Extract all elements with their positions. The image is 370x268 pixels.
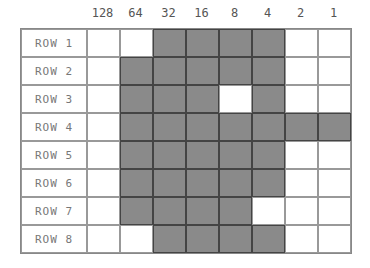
bit-cell xyxy=(219,225,252,253)
bit-cell xyxy=(120,85,153,113)
column-header: 128 64 32 16 8 4 2 1 xyxy=(86,6,350,22)
row-label: ROW 2 xyxy=(21,57,87,85)
bit-cell xyxy=(219,169,252,197)
bit-cell xyxy=(120,113,153,141)
bit-cell xyxy=(153,169,186,197)
bit-cell xyxy=(318,113,351,141)
col-32: 32 xyxy=(152,6,185,22)
bit-cell xyxy=(87,29,120,57)
bit-cell xyxy=(285,141,318,169)
bit-cell xyxy=(120,225,153,253)
col-1: 1 xyxy=(317,6,350,22)
bit-cell xyxy=(219,141,252,169)
grid-row: ROW 1 xyxy=(21,29,351,57)
bit-cell xyxy=(285,225,318,253)
bit-cell xyxy=(219,113,252,141)
row-label: ROW 3 xyxy=(21,85,87,113)
col-64: 64 xyxy=(119,6,152,22)
bit-cell xyxy=(153,141,186,169)
bit-cell xyxy=(219,197,252,225)
bit-cell xyxy=(87,57,120,85)
bit-cell xyxy=(219,29,252,57)
bit-cell xyxy=(285,57,318,85)
bit-cell xyxy=(318,169,351,197)
bit-cell xyxy=(120,169,153,197)
bit-cell xyxy=(318,197,351,225)
col-4: 4 xyxy=(251,6,284,22)
bit-cell xyxy=(120,141,153,169)
grid-row: ROW 4 xyxy=(21,113,351,141)
bit-cell xyxy=(186,141,219,169)
bit-cell xyxy=(87,85,120,113)
bit-cell xyxy=(252,113,285,141)
bit-cell xyxy=(120,197,153,225)
grid-row: ROW 6 xyxy=(21,169,351,197)
bit-cell xyxy=(186,197,219,225)
bit-cell xyxy=(318,29,351,57)
bit-cell xyxy=(153,225,186,253)
grid-row: ROW 2 xyxy=(21,57,351,85)
grid-row: ROW 3 xyxy=(21,85,351,113)
bit-cell xyxy=(318,225,351,253)
bit-cell xyxy=(186,85,219,113)
bit-cell xyxy=(318,141,351,169)
bit-cell xyxy=(318,57,351,85)
grid-row: ROW 8 xyxy=(21,225,351,253)
row-label: ROW 6 xyxy=(21,169,87,197)
bit-cell xyxy=(87,113,120,141)
bit-cell xyxy=(153,85,186,113)
bit-cell xyxy=(219,85,252,113)
bit-cell xyxy=(252,169,285,197)
col-2: 2 xyxy=(284,6,317,22)
row-label: ROW 5 xyxy=(21,141,87,169)
bit-cell xyxy=(285,169,318,197)
bit-cell xyxy=(186,57,219,85)
bit-grid: ROW 1ROW 2ROW 3ROW 4ROW 5ROW 6ROW 7ROW 8 xyxy=(20,28,352,254)
row-label: ROW 7 xyxy=(21,197,87,225)
row-label: ROW 4 xyxy=(21,113,87,141)
bit-cell xyxy=(252,197,285,225)
bit-cell xyxy=(153,197,186,225)
row-label: ROW 8 xyxy=(21,225,87,253)
bit-cell xyxy=(87,141,120,169)
bit-cell xyxy=(186,113,219,141)
grid-row: ROW 5 xyxy=(21,141,351,169)
bit-cell xyxy=(285,113,318,141)
col-8: 8 xyxy=(218,6,251,22)
bit-cell xyxy=(252,85,285,113)
bit-cell xyxy=(186,225,219,253)
bit-cell xyxy=(252,29,285,57)
bit-cell xyxy=(153,57,186,85)
bit-cell xyxy=(285,85,318,113)
bit-cell xyxy=(186,29,219,57)
bit-cell xyxy=(87,169,120,197)
bit-cell xyxy=(87,197,120,225)
bit-cell xyxy=(120,29,153,57)
col-128: 128 xyxy=(86,6,119,22)
bit-cell xyxy=(252,225,285,253)
col-16: 16 xyxy=(185,6,218,22)
bit-cell xyxy=(153,29,186,57)
bit-cell xyxy=(219,57,252,85)
bit-cell xyxy=(252,141,285,169)
bit-cell xyxy=(186,169,219,197)
bit-cell xyxy=(285,197,318,225)
bit-cell xyxy=(120,57,153,85)
bit-cell xyxy=(87,225,120,253)
bit-cell xyxy=(252,57,285,85)
row-label: ROW 1 xyxy=(21,29,87,57)
grid-row: ROW 7 xyxy=(21,197,351,225)
bit-cell xyxy=(318,85,351,113)
bit-cell xyxy=(153,113,186,141)
bit-cell xyxy=(285,29,318,57)
